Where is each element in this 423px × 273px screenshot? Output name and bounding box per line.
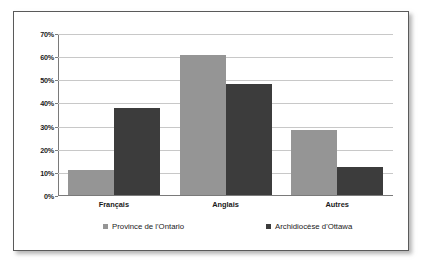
y-axis-tick-label: 20% [20,145,54,154]
y-axis-tick-label: 50% [20,76,54,85]
bar [337,167,383,195]
x-axis-category-label: Anglais [212,200,239,209]
y-axis-line [58,34,59,196]
bar [114,108,160,195]
y-axis-tick-mark [55,34,58,35]
legend-label: Archidiocèse d'Ottawa [275,223,352,231]
y-axis-tick-mark [55,80,58,81]
x-axis-line [58,195,393,196]
plot-area [58,34,393,196]
y-axis-tick-label: 0% [20,192,54,201]
y-axis-tick-label: 70% [20,30,54,39]
bar [180,55,226,195]
y-axis-tick-label: 60% [20,53,54,62]
legend-label: Province de l'Ontario [112,223,184,231]
y-axis-tick-mark [55,127,58,128]
x-axis-category-labels: FrançaisAnglaisAutres [58,200,393,212]
gridline [58,80,393,81]
chart-legend: Province de l'OntarioArchidiocèse d'Otta… [58,223,393,237]
legend-entry[interactable]: Archidiocèse d'Ottawa [266,223,352,231]
y-axis-tick-mark [55,173,58,174]
y-axis-tick-label: 30% [20,122,54,131]
y-axis-tick-mark [55,196,58,197]
chart-frame: 0%10%20%30%40%50%60%70% FrançaisAnglaisA… [13,11,409,251]
y-axis-tick-label: 10% [20,168,54,177]
legend-entry[interactable]: Province de l'Ontario [103,223,184,231]
bar [68,170,114,195]
bar [226,84,272,195]
chart-figure: 0%10%20%30%40%50%60%70% FrançaisAnglaisA… [0,0,423,273]
y-axis-tick-mark [55,150,58,151]
y-axis: 0%10%20%30%40%50%60%70% [18,34,54,196]
x-axis-category-label: Français [99,200,129,209]
y-axis-tick-mark [55,57,58,58]
x-axis-category-label: Autres [325,200,348,209]
y-axis-tick-label: 40% [20,99,54,108]
gridline [58,34,393,35]
legend-swatch-icon [266,224,271,229]
gridline [58,57,393,58]
y-axis-tick-mark [55,103,58,104]
legend-swatch-icon [103,224,108,229]
bar [291,130,337,195]
